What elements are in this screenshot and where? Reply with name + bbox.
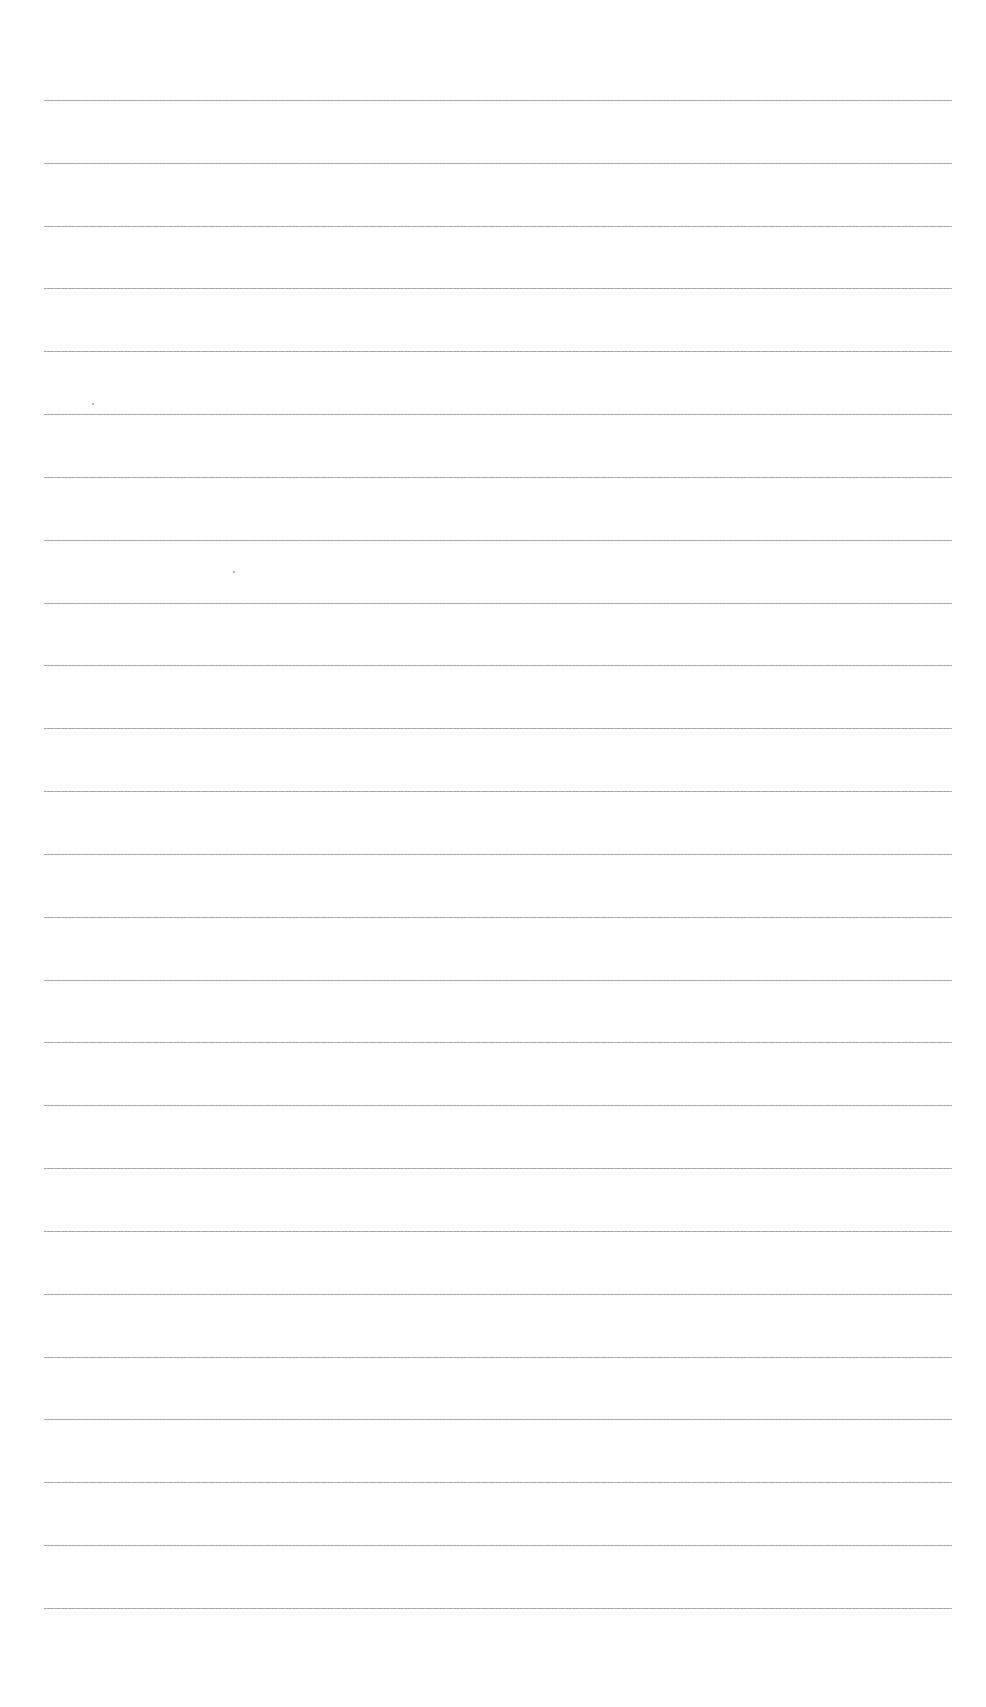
ruled-line	[44, 540, 952, 541]
ruled-line	[44, 1294, 952, 1295]
ruled-line	[44, 603, 952, 604]
ruled-line	[44, 1357, 952, 1358]
ruled-line	[44, 288, 952, 289]
ruled-line	[44, 1168, 952, 1169]
ruled-line	[44, 854, 952, 855]
ruled-line	[44, 1608, 952, 1609]
ruled-line	[44, 1231, 952, 1232]
ruled-line	[44, 1105, 952, 1106]
ruled-line	[44, 163, 952, 164]
ruled-line	[44, 1482, 952, 1483]
ruled-line	[44, 980, 952, 981]
ruled-line	[44, 477, 952, 478]
ruled-line	[44, 1419, 952, 1420]
paper-speck	[233, 571, 235, 573]
ruled-line	[44, 791, 952, 792]
ruled-line	[44, 917, 952, 918]
ruled-line	[44, 1545, 952, 1546]
ruled-line	[44, 100, 952, 101]
ruled-line	[44, 226, 952, 227]
ruled-line	[44, 665, 952, 666]
ruled-line	[44, 728, 952, 729]
ruled-line	[44, 1042, 952, 1043]
paper-speck	[92, 403, 94, 405]
ruled-line	[44, 351, 952, 352]
ruled-line	[44, 414, 952, 415]
ruled-paper-sheet	[0, 0, 986, 1707]
